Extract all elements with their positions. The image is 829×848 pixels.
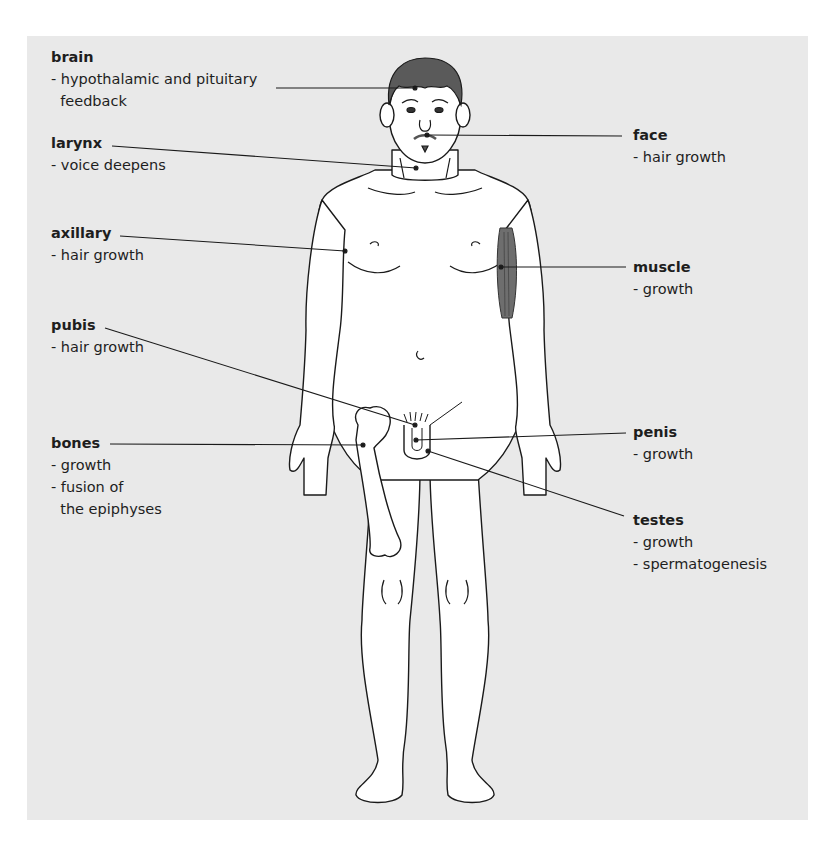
label-bones-item: the epiphyses [51, 498, 162, 520]
label-penis-item: - growth [633, 443, 693, 465]
label-muscle-item: - growth [633, 278, 693, 300]
label-bones-title: bones [51, 432, 162, 454]
label-pubis-item: - hair growth [51, 336, 144, 358]
biceps-muscle [497, 228, 516, 318]
label-muscle-title: muscle [633, 256, 693, 278]
label-testes-item: - spermatogenesis [633, 553, 767, 575]
label-bones-item: - growth [51, 454, 162, 476]
label-axillary-title: axillary [51, 222, 144, 244]
label-pubis-title: pubis [51, 314, 144, 336]
label-penis-title: penis [633, 421, 693, 443]
label-larynx-title: larynx [51, 132, 166, 154]
label-brain-title: brain [51, 46, 257, 68]
left-arm [289, 200, 345, 495]
label-larynx-item: - voice deepens [51, 154, 166, 176]
label-penis: penis - growth [633, 421, 693, 465]
label-brain-item: feedback [51, 90, 257, 112]
label-muscle: muscle - growth [633, 256, 693, 300]
label-larynx: larynx - voice deepens [51, 132, 166, 176]
label-bones: bones - growth - fusion of the epiphyses [51, 432, 162, 520]
label-pubis: pubis - hair growth [51, 314, 144, 358]
label-bones-item: - fusion of [51, 476, 162, 498]
label-axillary: axillary - hair growth [51, 222, 144, 266]
label-testes-title: testes [633, 509, 767, 531]
label-testes-item: - growth [633, 531, 767, 553]
right-leg [430, 470, 494, 803]
label-face-title: face [633, 124, 726, 146]
label-face-item: - hair growth [633, 146, 726, 168]
label-face: face - hair growth [633, 124, 726, 168]
label-testes: testes - growth - spermatogenesis [633, 509, 767, 575]
label-axillary-item: - hair growth [51, 244, 144, 266]
label-brain-item: - hypothalamic and pituitary [51, 68, 257, 90]
label-brain: brain - hypothalamic and pituitary feedb… [51, 46, 257, 112]
